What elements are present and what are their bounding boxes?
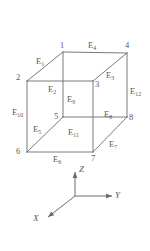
edge-label-e12: E12 xyxy=(130,87,141,96)
axis-y-arrowhead-icon xyxy=(106,194,112,199)
cube-edge-e1 xyxy=(27,52,63,81)
coordinate-axes xyxy=(48,172,112,217)
vertex-label-4: 4 xyxy=(125,41,129,50)
vertex-label-2: 2 xyxy=(16,73,20,82)
edge-label-e9: E9 xyxy=(67,95,75,104)
vertex-label-8: 8 xyxy=(129,113,133,122)
vertex-label-5: 5 xyxy=(54,112,58,121)
axis-y-label: Y xyxy=(115,191,120,200)
edge-label-e7: E7 xyxy=(109,140,117,149)
edge-label-e10: E10 xyxy=(12,108,23,117)
edge-label-e6: E6 xyxy=(53,155,61,164)
axis-z-label: Z xyxy=(79,165,84,174)
edge-label-e1: E1 xyxy=(36,57,44,66)
vertex-label-7: 7 xyxy=(91,154,95,163)
vertex-label-3: 3 xyxy=(95,80,99,89)
cube-edge-e4 xyxy=(63,52,127,53)
edge-label-e11: E11 xyxy=(68,128,79,137)
edge-label-e8: E8 xyxy=(104,110,112,119)
cube-geometry xyxy=(0,0,150,251)
cube-element-diagram: 12345678E1E2E3E4E5E6E7E8E9E10E11E12ZYX xyxy=(0,0,150,251)
edge-label-e4: E4 xyxy=(88,41,96,50)
axis-x-label: X xyxy=(33,214,39,223)
axis-x-arrowhead-icon xyxy=(48,211,54,217)
cube-edge-e5 xyxy=(27,117,63,152)
vertex-label-1: 1 xyxy=(60,41,64,50)
edge-label-e5: E5 xyxy=(33,125,41,134)
axis-z-arrowhead-icon xyxy=(73,172,78,178)
vertex-label-6: 6 xyxy=(16,147,20,156)
edge-label-e2: E2 xyxy=(48,85,56,94)
edge-label-e3: E3 xyxy=(106,71,114,80)
